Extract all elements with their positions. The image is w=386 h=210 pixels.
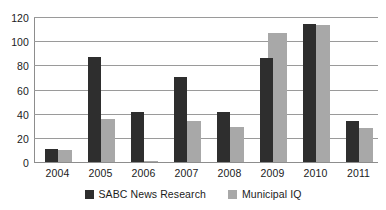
x-axis-tick-label: 2004: [46, 167, 70, 179]
chart-legend: SABC News ResearchMunicipal IQ: [0, 188, 386, 200]
bar: [88, 57, 101, 162]
x-axis-tick-label: 2010: [304, 167, 328, 179]
legend-label: SABC News Research: [99, 188, 206, 200]
legend-label: Municipal IQ: [242, 188, 302, 200]
legend-swatch: [228, 190, 237, 199]
y-axis-tick-label: 40: [17, 109, 29, 121]
y-axis-tick-label: 80: [17, 60, 29, 72]
legend-item[interactable]: Municipal IQ: [228, 188, 302, 200]
x-axis-tick-label: 2009: [261, 167, 285, 179]
legend-swatch: [85, 190, 94, 199]
legend-item[interactable]: SABC News Research: [85, 188, 206, 200]
bar: [217, 112, 230, 162]
x-axis-tick-label: 2008: [218, 167, 242, 179]
bar: [45, 149, 58, 162]
bar: [260, 58, 273, 162]
x-axis-tick-label: 2005: [89, 167, 113, 179]
gridline: [34, 162, 378, 163]
x-axis-tick-label: 2006: [132, 167, 156, 179]
bar: [346, 121, 359, 162]
bar: [174, 77, 187, 162]
y-axis-tick-label: 100: [11, 36, 29, 48]
y-axis-tick-label: 60: [17, 85, 29, 97]
chart-figure: 020406080100120 200420052006200720082009…: [0, 0, 386, 210]
gridline: [34, 17, 378, 18]
y-axis-tick-label: 120: [11, 12, 29, 24]
bar: [303, 24, 316, 162]
x-axis-tick-label: 2011: [347, 167, 370, 179]
plot-area: 020406080100120: [34, 17, 378, 163]
x-axis-tick-label: 2007: [175, 167, 199, 179]
y-axis-tick-label: 0: [23, 157, 29, 169]
bar: [131, 112, 144, 162]
y-axis-tick-label: 20: [17, 133, 29, 145]
